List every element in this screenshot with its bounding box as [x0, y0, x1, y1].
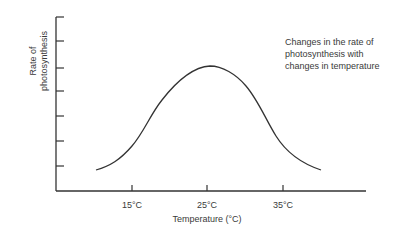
y-axis-label-line1: Rate of [28, 18, 39, 104]
y-axis-label-line2: photosynthesis [39, 18, 50, 104]
caption-line3: changes in temperature [285, 60, 397, 72]
x-tick-label-35: 35°C [273, 200, 293, 210]
y-ticks [56, 17, 64, 166]
x-tick-label-25: 25°C [197, 200, 217, 210]
rate-curve [96, 66, 321, 170]
x-ticks [132, 185, 283, 191]
y-axis-label: Rate of photosynthesis [28, 18, 50, 104]
x-axis-label: Temperature (°C) [172, 214, 241, 224]
caption-line2: photosynthesis with [285, 48, 397, 60]
caption-line1: Changes in the rate of [285, 36, 397, 48]
x-tick-label-15: 15°C [122, 200, 142, 210]
chart-caption: Changes in the rate of photosynthesis wi… [285, 36, 397, 72]
